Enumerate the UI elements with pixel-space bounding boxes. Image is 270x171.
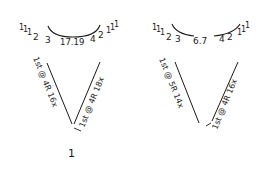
- right-diagram-left-leg-label: 1st @ 5R 14x: [157, 56, 186, 109]
- left-arc-value-2b: 2: [98, 30, 104, 40]
- right-diagram-right-leg-label: 1st @ 4R 16x: [211, 77, 240, 130]
- left-arc-value-2: 2: [33, 32, 39, 42]
- diagram-canvas: 1 1 1 2 3 17.19 4 2 1 1 1 1st @ 4R 16x 1…: [0, 0, 270, 171]
- left-v-tick: [74, 128, 81, 131]
- left-bottom-label: 1: [68, 147, 75, 160]
- right-arc-tick-3: 1: [160, 28, 165, 37]
- left-diagram: 1 1 1 2 3 17.19 4 2 1 1 1 1st @ 4R 16x 1…: [19, 20, 119, 160]
- right-arc-value-2b: 2: [227, 32, 233, 42]
- left-arc-value-4: 4: [90, 34, 96, 44]
- right-arc-tick-6: 1: [245, 21, 250, 30]
- left-arc-value-3: 3: [45, 35, 51, 45]
- right-leg-label: 1st @ 4R 18x: [78, 75, 107, 128]
- left-arc-tick-6: 1: [114, 20, 119, 29]
- right-arc-center-value: 6.7: [193, 36, 207, 46]
- left-leg-label: 1st @ 4R 16x: [31, 55, 60, 108]
- right-arc-value-4: 4: [219, 34, 225, 44]
- right-diagram: 1 1 1 2 3 6.7 4 2 1 1 1 1st @ 5R 14x 1st…: [152, 21, 250, 131]
- right-arc-value-2: 2: [166, 32, 172, 42]
- left-arc-tick-3: 1: [27, 28, 32, 37]
- right-arc-value-3: 3: [175, 34, 181, 44]
- hand-drawn-diagram-sheet: 1 1 1 2 3 17.19 4 2 1 1 1 1st @ 4R 16x 1…: [0, 0, 270, 171]
- left-arc-center-value: 17.19: [60, 37, 84, 47]
